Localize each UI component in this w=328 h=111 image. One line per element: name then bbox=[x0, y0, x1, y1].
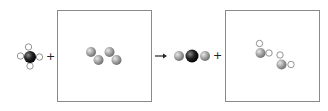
oxygen-atom bbox=[200, 51, 210, 61]
reaction-arrow bbox=[155, 54, 167, 59]
hydrogen-atom bbox=[277, 52, 283, 58]
oxygen-atom bbox=[105, 47, 115, 57]
plus-sign-1: + bbox=[46, 51, 55, 62]
oxygen-atom bbox=[256, 48, 266, 58]
carbon-atom bbox=[186, 50, 199, 63]
oxygen-atom bbox=[174, 51, 184, 61]
carbon-dioxide-molecule bbox=[174, 50, 210, 63]
oxygen-atom bbox=[277, 60, 287, 70]
reactant-box bbox=[58, 11, 152, 102]
hydrogen-atom bbox=[25, 44, 31, 50]
hydrogen-atom bbox=[288, 61, 294, 67]
hydrogen-atom bbox=[256, 40, 262, 46]
plus-sign-2: + bbox=[213, 50, 222, 61]
hydrogen-atom bbox=[266, 50, 272, 56]
carbon-atom bbox=[24, 51, 36, 63]
methane-molecule bbox=[17, 44, 42, 69]
hydrogen-atom bbox=[27, 63, 33, 69]
hydrogen-atom bbox=[36, 54, 42, 60]
oxygen-atom bbox=[94, 55, 104, 65]
hydrogen-atom bbox=[17, 53, 23, 59]
product-box bbox=[226, 11, 320, 102]
oxygen-atom bbox=[112, 55, 122, 65]
oxygen-atom bbox=[86, 47, 96, 57]
